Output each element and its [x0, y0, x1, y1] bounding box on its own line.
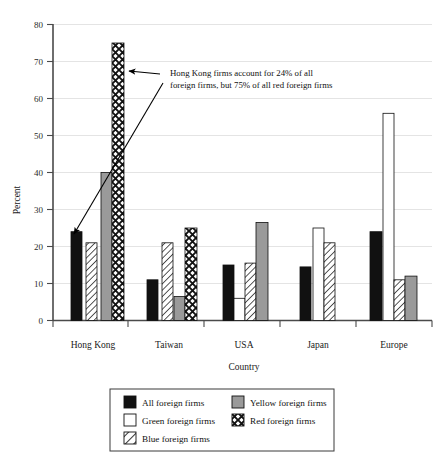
- bar-hong-kong-yellow-foreign-firms: [101, 173, 112, 321]
- legend-swatch-green-foreign-firms: [124, 414, 136, 426]
- y-tick-60: 60: [34, 94, 44, 104]
- x-axis: [53, 321, 432, 328]
- bar-group-hong-kong: [71, 43, 124, 321]
- callout-line-1: Hong Kong firms account for 24% of all: [170, 68, 313, 78]
- x-tick-labels: Hong Kong Taiwan USA Japan Europe: [71, 340, 408, 350]
- legend-label-red-foreign-firms: Red foreign firms: [250, 416, 316, 426]
- y-tick-40: 40: [34, 168, 44, 178]
- legend-label-all-foreign-firms: All foreign firms: [142, 398, 205, 408]
- x-label-taiwan: Taiwan: [155, 340, 183, 350]
- bar-taiwan-yellow-foreign-firms: [174, 297, 185, 321]
- y-axis-title: Percent: [12, 185, 22, 214]
- y-tick-20: 20: [34, 242, 44, 252]
- bar-hong-kong-all-foreign-firms: [71, 232, 82, 321]
- y-tick-0: 0: [39, 316, 44, 326]
- y-tick-80: 80: [34, 20, 44, 30]
- bar-europe-green-foreign-firms: [383, 113, 394, 320]
- bar-hong-kong-red-foreign-firms: [112, 43, 124, 321]
- bar-group-usa: [223, 222, 268, 320]
- bar-japan-blue-foreign-firms: [324, 243, 335, 321]
- legend-label-green-foreign-firms: Green foreign firms: [142, 416, 215, 426]
- bar-taiwan-red-foreign-firms: [185, 228, 197, 321]
- y-axis: [47, 24, 53, 321]
- bar-japan-green-foreign-firms: [313, 228, 324, 321]
- bar-usa-all-foreign-firms: [223, 265, 234, 321]
- bar-usa-yellow-foreign-firms: [256, 222, 268, 320]
- bar-taiwan-all-foreign-firms: [147, 280, 158, 321]
- legend-swatch-red-foreign-firms: [232, 414, 244, 426]
- bar-usa-blue-foreign-firms: [245, 263, 256, 320]
- bar-hong-kong-blue-foreign-firms: [86, 243, 97, 321]
- y-tick-70: 70: [34, 57, 44, 67]
- y-tick-10: 10: [34, 279, 44, 289]
- legend-label-yellow-foreign-firms: Yellow foreign firms: [250, 398, 327, 408]
- x-axis-title: Country: [228, 362, 259, 372]
- x-label-hong-kong: Hong Kong: [71, 340, 116, 350]
- legend-swatch-all-foreign-firms: [124, 396, 136, 408]
- x-label-japan: Japan: [307, 340, 329, 350]
- bar-taiwan-blue-foreign-firms: [162, 243, 173, 321]
- bar-usa-green-foreign-firms: [234, 298, 245, 320]
- bar-europe-yellow-foreign-firms: [405, 276, 417, 320]
- legend-swatch-yellow-foreign-firms: [232, 396, 244, 408]
- bar-japan-all-foreign-firms: [300, 267, 311, 321]
- bar-chart-figure: 80 70 60 50 40 30 20 10 0 Percent: [0, 0, 444, 476]
- bar-europe-all-foreign-firms: [370, 232, 382, 321]
- legend-swatch-blue-foreign-firms: [124, 432, 136, 444]
- y-tick-labels: 80 70 60 50 40 30 20 10 0: [34, 20, 44, 326]
- x-label-europe: Europe: [380, 340, 407, 350]
- legend-label-blue-foreign-firms: Blue foreign firms: [142, 434, 210, 444]
- bar-group-taiwan: [147, 228, 197, 321]
- y-tick-30: 30: [34, 205, 44, 215]
- bar-group-japan: [300, 228, 335, 321]
- x-label-usa: USA: [234, 340, 253, 350]
- bar-europe-blue-foreign-firms: [394, 280, 405, 321]
- bar-group-europe: [370, 113, 417, 320]
- y-tick-50: 50: [34, 131, 44, 141]
- callout-line-2: foreign firms, but 75% of all red foreig…: [170, 80, 333, 90]
- legend: All foreign firms Yellow foreign firms G…: [110, 389, 334, 451]
